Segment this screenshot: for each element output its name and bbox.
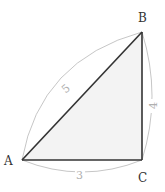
vertex-a-label: A: [3, 154, 13, 168]
vertex-b-label: B: [138, 11, 147, 25]
side-bc-length: 4: [147, 102, 160, 109]
vertex-c-label: C: [138, 171, 147, 185]
arc-side-bc: [142, 32, 152, 160]
side-ac-length: 3: [76, 169, 83, 182]
triangle-diagram: 5 4 3 A B C: [0, 0, 165, 192]
